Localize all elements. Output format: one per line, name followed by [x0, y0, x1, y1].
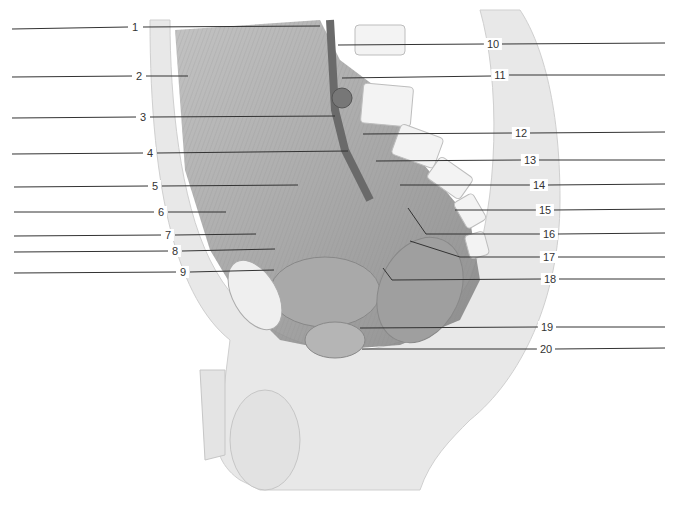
label-number-12: 12	[512, 127, 530, 139]
label-number-15: 15	[536, 204, 554, 216]
label-number-4: 4	[144, 147, 156, 159]
bladder	[270, 257, 380, 327]
label-number-2: 2	[133, 70, 145, 82]
label-number-7: 7	[162, 229, 174, 241]
label-number-16: 16	[540, 228, 558, 240]
scrotum	[230, 390, 300, 490]
label-number-3: 3	[137, 111, 149, 123]
penis	[200, 370, 225, 460]
label-number-11: 11	[491, 69, 508, 81]
label-number-18: 18	[541, 273, 559, 285]
label-number-13: 13	[521, 154, 539, 166]
label-number-10: 10	[484, 38, 502, 50]
label-number-6: 6	[155, 206, 167, 218]
label-number-20: 20	[537, 343, 555, 355]
label-number-9: 9	[177, 266, 189, 278]
label-number-1: 1	[129, 21, 141, 33]
label-number-5: 5	[149, 180, 161, 192]
prostate	[305, 322, 365, 358]
label-number-8: 8	[169, 245, 181, 257]
pelvis-illustration	[0, 0, 675, 525]
label-number-14: 14	[530, 179, 548, 191]
label-number-19: 19	[538, 321, 556, 333]
label-number-17: 17	[540, 251, 558, 263]
